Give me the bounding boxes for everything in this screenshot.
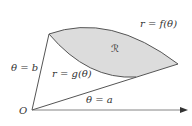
polar-region-diagram: ℛ r = f(θ) r = g(θ) θ = b θ = a O [0,0,192,126]
inner-curve-label: r = g(θ) [52,68,92,79]
upper-ray-label: θ = b [11,62,38,73]
origin-label: O [19,105,27,116]
axis-arrowhead-icon [180,107,188,113]
lower-ray-label: θ = a [86,94,113,105]
outer-curve-label: r = f(θ) [140,18,177,29]
region-label: ℛ [111,43,119,54]
